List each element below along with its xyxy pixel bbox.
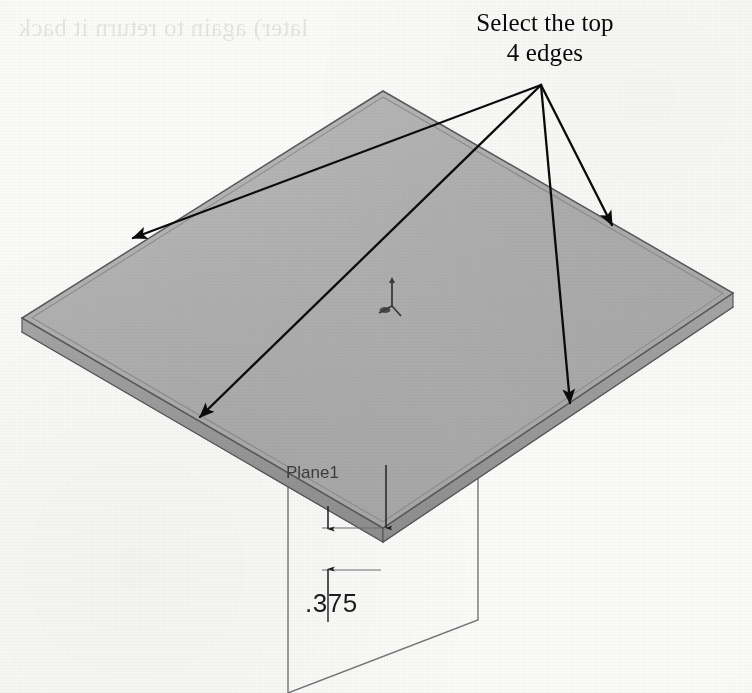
callout-leader-lines [133, 85, 612, 417]
annotation-layer [0, 0, 752, 693]
callout-arrow-upper-left-edge [133, 85, 541, 238]
scanned-page: later) again to return it back [0, 0, 752, 693]
callout-label: Select the top4 edges [400, 8, 690, 67]
callout-arrow-lower-left-edge [200, 85, 541, 417]
